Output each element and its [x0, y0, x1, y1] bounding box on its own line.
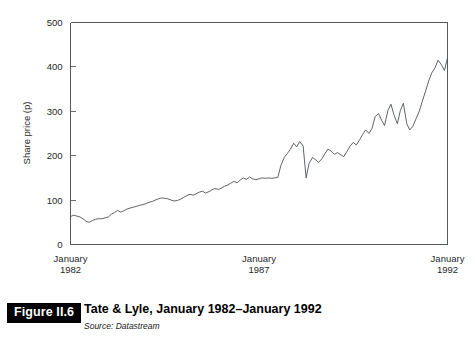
y-tick-label: 500 [47, 17, 63, 28]
x-tick-label: January1982 [54, 253, 88, 275]
figure-container: 0100200300400500 Share price (p) January… [0, 0, 475, 355]
figure-title: Tate & Lyle, January 1982–January 1992 [84, 301, 469, 317]
plot-frame [71, 23, 448, 245]
y-axis-tick-labels: 0100200300400500 [47, 17, 63, 250]
figure-number-badge: Figure II.6 [7, 303, 81, 323]
chart-area: 0100200300400500 Share price (p) January… [0, 0, 475, 295]
x-axis-tick-labels: January1982January1987January1992 [54, 253, 465, 275]
y-tick-label: 100 [47, 195, 63, 206]
share-price-line-chart: 0100200300400500 Share price (p) January… [0, 0, 475, 295]
caption-text: Tate & Lyle, January 1982–January 1992 S… [84, 301, 469, 332]
x-tick-label: January1992 [431, 253, 465, 275]
figure-caption: Figure II.6 Tate & Lyle, January 1982–Ja… [0, 296, 475, 355]
share-price-series [71, 58, 448, 222]
y-tick-label: 400 [47, 61, 63, 72]
figure-source: Source: Datastream [84, 320, 469, 332]
x-tick-label: January1987 [242, 253, 276, 275]
y-tick-label: 300 [47, 106, 63, 117]
y-tick-label: 200 [47, 150, 63, 161]
y-axis-title: Share price (p) [21, 102, 32, 165]
y-tick-label: 0 [57, 239, 62, 250]
y-axis-ticks [71, 67, 76, 200]
